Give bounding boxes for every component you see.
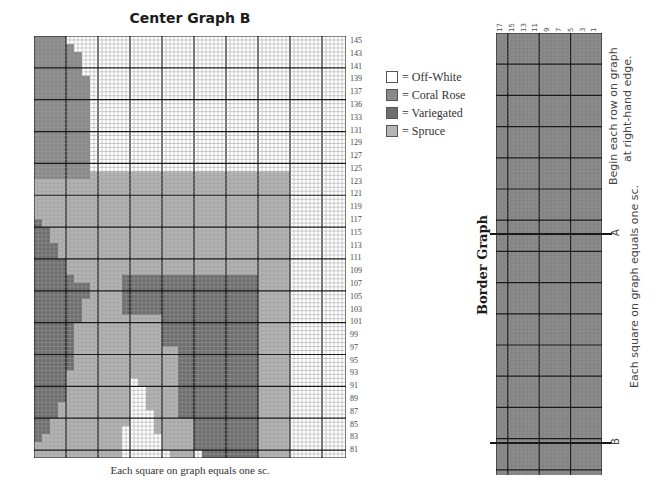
column-label: 5 xyxy=(567,28,575,32)
row-label: 93 xyxy=(350,369,358,377)
center-graph-title: Center Graph B xyxy=(34,10,346,26)
row-label: 99 xyxy=(350,331,358,339)
border-column-labels: 1715131197531 xyxy=(496,4,602,32)
row-label: 101 xyxy=(350,318,362,326)
row-label: 125 xyxy=(350,165,362,173)
legend-item: = Spruce xyxy=(386,122,465,140)
legend-item: = Off-White xyxy=(386,68,465,86)
row-label: 89 xyxy=(350,395,358,403)
row-label: 107 xyxy=(350,280,362,288)
column-label: 17 xyxy=(496,23,504,32)
row-label: 141 xyxy=(350,63,362,71)
legend-swatch xyxy=(386,89,398,101)
row-number-labels: 1451431411391371361331311291271251231211… xyxy=(350,36,380,458)
column-label: 9 xyxy=(543,28,551,32)
row-label: 113 xyxy=(350,242,362,250)
border-graph xyxy=(496,33,602,475)
row-label: 133 xyxy=(350,114,362,122)
row-label: 131 xyxy=(350,127,362,135)
color-legend: = Off-White= Coral Rose= Variegated= Spr… xyxy=(386,68,465,140)
column-label: 7 xyxy=(555,28,563,32)
column-label: 13 xyxy=(520,23,528,32)
row-label: 139 xyxy=(350,75,362,83)
center-graph xyxy=(34,36,346,458)
legend-label: = Coral Rose xyxy=(402,88,465,103)
row-label: 83 xyxy=(350,433,358,441)
row-label: 81 xyxy=(350,446,358,454)
row-label: 145 xyxy=(350,37,362,45)
row-label: 115 xyxy=(350,229,362,237)
row-label: 123 xyxy=(350,178,362,186)
row-label: 105 xyxy=(350,293,362,301)
row-label: 111 xyxy=(350,254,361,262)
row-label: 117 xyxy=(350,216,362,224)
row-label: 109 xyxy=(350,267,362,275)
legend-swatch xyxy=(386,107,398,119)
marker-line-b xyxy=(490,442,612,444)
legend-item: = Coral Rose xyxy=(386,86,465,104)
marker-label-a: A xyxy=(610,229,621,236)
row-label: 87 xyxy=(350,408,358,416)
border-graph-title-text: Border Graph xyxy=(475,215,490,315)
row-label: 121 xyxy=(350,190,362,198)
row-label: 136 xyxy=(350,101,362,109)
marker-label-b: B xyxy=(610,438,621,445)
legend-label: = Spruce xyxy=(402,124,445,139)
row-label: 91 xyxy=(350,382,358,390)
legend-swatch xyxy=(386,71,398,83)
row-label: 129 xyxy=(350,139,362,147)
marker-line-a xyxy=(490,233,612,235)
border-graph-title: Border Graph xyxy=(472,210,492,320)
center-graph-caption: Each square on graph equals one sc. xyxy=(34,464,346,476)
instruction-right-edge: at right-hand edge. xyxy=(621,55,634,162)
column-label: 15 xyxy=(508,23,516,32)
row-label: 97 xyxy=(350,344,358,352)
row-label: 85 xyxy=(350,421,358,429)
row-label: 143 xyxy=(350,50,362,58)
instruction-begin-row: Begin each row on graph xyxy=(607,47,620,185)
legend-swatch xyxy=(386,125,398,137)
instruction-each-square: Each square on graph equals one sc. xyxy=(628,185,641,388)
row-label: 119 xyxy=(350,203,362,211)
legend-label: = Variegated xyxy=(402,106,463,121)
column-label: 1 xyxy=(590,28,598,32)
column-label: 11 xyxy=(531,23,539,32)
row-label: 95 xyxy=(350,357,358,365)
legend-label: = Off-White xyxy=(402,70,462,85)
row-label: 137 xyxy=(350,88,362,96)
column-label: 3 xyxy=(579,28,587,32)
legend-item: = Variegated xyxy=(386,104,465,122)
row-label: 127 xyxy=(350,152,362,160)
row-label: 103 xyxy=(350,306,362,314)
